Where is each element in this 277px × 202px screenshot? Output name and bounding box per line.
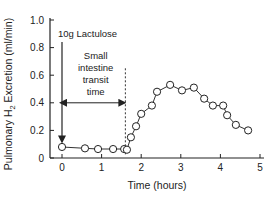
x-tick-label: 1: [99, 162, 105, 173]
data-point-marker: [81, 145, 88, 152]
data-point-marker: [132, 123, 139, 130]
y-axis-label: Pulmonary H2 Excretion (ml/min): [2, 18, 17, 170]
data-point-marker: [127, 134, 134, 141]
data-point-marker: [224, 112, 231, 119]
lactulose-label: 10g Lactulose: [58, 28, 117, 39]
data-point-marker: [209, 102, 216, 109]
y-tick-label: 1.0: [30, 15, 44, 26]
x-tick-label: 5: [257, 162, 263, 173]
transit-time-label: intestine: [78, 62, 113, 73]
data-point-marker: [167, 81, 174, 88]
transit-time-label: Small: [84, 50, 108, 61]
annotations: 10g LactuloseSmallintestinetransittime: [58, 28, 125, 155]
data-point-marker: [178, 87, 185, 94]
y-tick-label: 0.2: [30, 125, 44, 136]
x-axis-label: Time (hours): [127, 179, 186, 191]
x-tick-label: 0: [59, 162, 65, 173]
data-point-marker: [109, 145, 116, 152]
data-point-marker: [190, 84, 197, 91]
data-point-marker: [245, 127, 252, 134]
x-tick-label: 2: [138, 162, 144, 173]
data-point-marker: [148, 102, 155, 109]
y-tick-label: 0.6: [30, 70, 44, 81]
y-tick-label: 0.4: [30, 97, 44, 108]
y-tick-label: 0.8: [30, 42, 44, 53]
data-point-marker: [232, 121, 239, 128]
h2-excretion-chart: 00.20.40.60.81.0012345 10g LactuloseSmal…: [0, 0, 277, 202]
x-tick-label: 3: [178, 162, 184, 173]
data-point-marker: [58, 143, 65, 150]
transit-time-label: time: [87, 86, 105, 97]
x-tick-label: 4: [218, 162, 224, 173]
data-point-marker: [220, 102, 227, 109]
data-point-marker: [201, 95, 208, 102]
y-tick-label: 0: [38, 153, 44, 164]
data-point-marker: [123, 146, 130, 153]
transit-time-label: transit: [83, 74, 109, 85]
data-point-marker: [94, 145, 101, 152]
data-point-marker: [138, 110, 145, 117]
data-point-marker: [153, 88, 160, 95]
